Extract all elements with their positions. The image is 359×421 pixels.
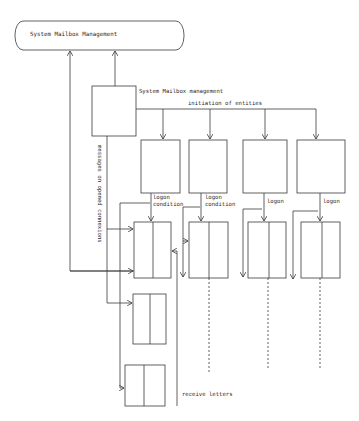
manager-node-shape — [92, 86, 136, 136]
entity-box-2 — [189, 140, 227, 193]
logon-branch-3 — [243, 209, 262, 277]
logon-condition-label-2: logon condition — [205, 194, 245, 208]
mailbox-6 — [125, 365, 165, 406]
top-node-label: System Mailbox Management — [30, 32, 117, 38]
entity-box-4 — [297, 140, 345, 193]
diagram-canvas — [0, 0, 359, 421]
logon-branch-4 — [293, 211, 318, 279]
manager-node-label: System Mailbox management — [139, 89, 223, 95]
mailbox-4 — [301, 222, 340, 278]
entity-box-3 — [243, 140, 287, 193]
mailbox-2 — [189, 222, 228, 278]
entity-box-1 — [141, 140, 180, 193]
receive-letters-line — [172, 251, 177, 406]
mailbox-3 — [248, 222, 286, 278]
initiation-label: initiation of entities — [188, 101, 262, 107]
mailbox-5 — [133, 294, 166, 344]
logon-condition-label-1: logon condition — [153, 194, 193, 208]
logon-label-3: logon — [267, 199, 284, 205]
messages-label: messages on opened connexions — [96, 145, 102, 243]
mailbox-1 — [134, 222, 171, 278]
logon-condition-line-2 — [183, 207, 200, 277]
receive-letters-label: receive letters — [182, 392, 233, 398]
logon-condition-line-1 — [120, 203, 150, 388]
logon-label-4: logon — [323, 199, 340, 205]
